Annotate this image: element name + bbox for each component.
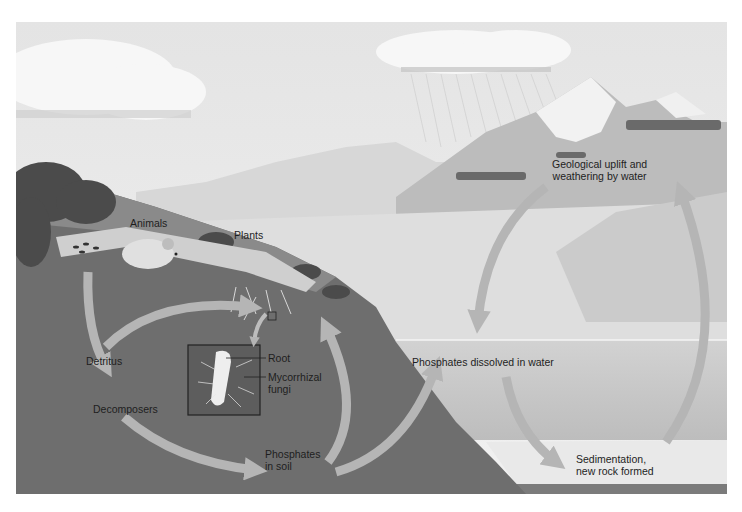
label-geological-uplift: Geological uplift and weathering by wate… [552,158,647,182]
label-root: Root [268,352,290,364]
label-phosphates-in-soil: Phosphates in soil [265,448,320,472]
scene-illustration [16,22,727,494]
label-sedimentation: Sedimentation, new rock formed [576,453,654,477]
label-phosphates-dissolved-in-water: Phosphates dissolved in water [412,356,554,368]
label-plants: Plants [234,229,263,241]
phosphorus-cycle-diagram: Animals Plants Detritus Decomposers Root… [16,22,727,494]
label-detritus: Detritus [86,355,122,367]
label-decomposers: Decomposers [93,403,158,415]
label-animals: Animals [130,217,167,229]
root-inset-icon [188,345,266,415]
label-mycorrhizal-fungi: Mycorrhizal fungi [268,371,322,395]
